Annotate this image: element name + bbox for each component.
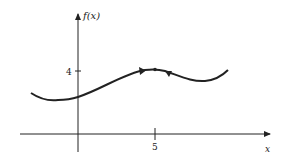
x-axis-label: x bbox=[265, 144, 270, 154]
y-axis-label: f(x) bbox=[82, 10, 100, 21]
maximum-point-icon bbox=[153, 68, 157, 72]
y-tick-label: 4 bbox=[66, 67, 72, 77]
function-graph: f(x) x 4 5 bbox=[0, 0, 285, 158]
x-tick-label: 5 bbox=[152, 142, 158, 152]
left-arrow-icon bbox=[139, 67, 146, 75]
function-curve bbox=[31, 69, 228, 100]
